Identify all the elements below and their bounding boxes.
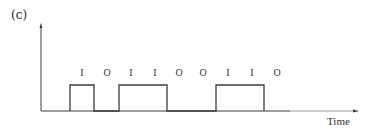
bit-label: I [153, 67, 156, 78]
bit-label: O [103, 67, 110, 78]
bit-label: O [175, 67, 182, 78]
bit-label: I [250, 67, 253, 78]
bit-label: O [199, 67, 206, 78]
signal-waveform [70, 85, 264, 111]
bit-label: I [129, 67, 132, 78]
bit-label: I [80, 67, 83, 78]
bit-label: O [273, 67, 280, 78]
x-axis-arrowhead-icon [353, 110, 359, 113]
digital-signal-diagram: I O I I O O I I O Time [0, 0, 367, 131]
bit-label: I [226, 67, 229, 78]
y-axis-arrowhead-icon [40, 23, 43, 28]
x-axis-label: Time [327, 115, 350, 127]
